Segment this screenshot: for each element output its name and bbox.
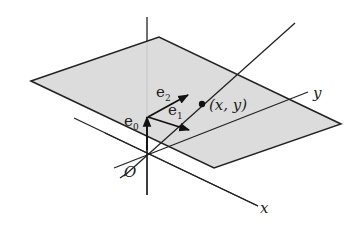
label-x-axis: x [260, 199, 269, 217]
point-xy [199, 101, 205, 107]
label-y-axis: y [312, 84, 322, 102]
label-point: (x, y) [209, 96, 247, 114]
label-origin: O [124, 163, 136, 181]
plane [31, 37, 341, 168]
geometry-diagram: e2 e1 e0 (x, y) y x O [0, 0, 364, 230]
